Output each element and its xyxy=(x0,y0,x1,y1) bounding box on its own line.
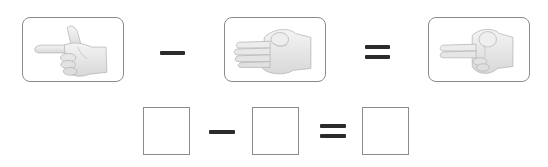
equals-sign-row2: = xyxy=(320,124,346,139)
minus-sign-row2: − xyxy=(209,130,235,134)
hand-card-2: Hand showing 4 fingers xyxy=(224,17,326,82)
equals-sign-row1: = xyxy=(365,45,390,60)
two-finger-hand-icon xyxy=(429,18,529,81)
answer-box-subtrahend[interactable] xyxy=(252,107,299,155)
four-finger-hand-icon xyxy=(225,18,325,81)
hand-card-1: Hand showing 2 fingers (thumb and index) xyxy=(22,17,124,82)
hand-card-3: Hand showing 2 fingers (index and middle… xyxy=(428,17,530,82)
answer-box-minuend[interactable] xyxy=(143,107,190,155)
minus-sign-row1: − xyxy=(160,51,185,55)
pointing-hand-icon xyxy=(23,18,123,81)
answer-box-difference[interactable] xyxy=(362,107,409,155)
